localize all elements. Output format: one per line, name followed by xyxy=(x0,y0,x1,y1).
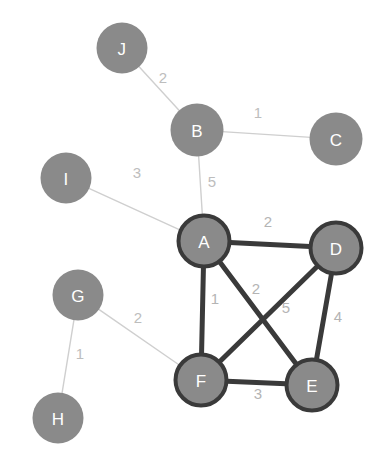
edge-weight-label-d-f: 5 xyxy=(282,299,290,316)
edge-weight-label-a-f: 1 xyxy=(211,290,219,307)
node-label-j: J xyxy=(118,40,127,59)
graph-edge-g-h xyxy=(62,319,74,395)
edge-weight-label-a-d: 2 xyxy=(264,213,272,230)
graph-edge-a-f xyxy=(202,267,204,354)
edge-weight-label-g-f: 2 xyxy=(134,309,142,326)
graph-edge-b-a xyxy=(199,155,203,215)
graph-node-e[interactable]: E xyxy=(287,360,338,411)
graph-node-f[interactable]: F xyxy=(176,355,227,406)
graph-node-c[interactable]: C xyxy=(310,113,363,166)
node-label-e: E xyxy=(306,377,318,396)
graph-diagram: JBCIADGFEH 215321254321 xyxy=(0,0,386,474)
node-label-b: B xyxy=(191,122,203,141)
graph-node-d[interactable]: D xyxy=(311,223,362,274)
graph-node-j[interactable]: J xyxy=(97,23,148,74)
graph-canvas: JBCIADGFEH 215321254321 xyxy=(0,0,386,474)
nodes-layer: JBCIADGFEH xyxy=(33,23,363,444)
edge-weight-label-b-a: 5 xyxy=(208,173,216,190)
graph-node-g[interactable]: G xyxy=(53,270,104,321)
graph-node-i[interactable]: I xyxy=(41,153,92,204)
edge-weight-label-g-h: 1 xyxy=(76,345,84,362)
edge-weight-label-f-e: 3 xyxy=(254,385,262,402)
edge-weight-label-i-a: 3 xyxy=(133,164,141,181)
edge-weight-label-j-b: 2 xyxy=(159,69,167,86)
graph-node-a[interactable]: A xyxy=(179,216,230,267)
edge-weight-label-a-e: 2 xyxy=(252,280,260,297)
node-label-f: F xyxy=(196,372,207,391)
edge-weight-label-d-e: 4 xyxy=(334,308,342,325)
graph-edge-f-e xyxy=(227,381,286,384)
graph-node-h[interactable]: H xyxy=(33,393,84,444)
node-label-i: I xyxy=(63,170,68,189)
graph-edge-d-e xyxy=(316,274,331,360)
node-label-d: D xyxy=(330,240,343,259)
node-label-h: H xyxy=(52,410,65,429)
graph-node-b[interactable]: B xyxy=(171,104,224,157)
node-label-c: C xyxy=(330,131,343,150)
node-label-a: A xyxy=(198,233,210,252)
node-label-g: G xyxy=(71,287,85,306)
graph-edge-i-a xyxy=(88,188,181,230)
edge-weight-label-b-c: 1 xyxy=(254,104,262,121)
graph-edge-a-d xyxy=(230,242,310,246)
graph-edge-b-c xyxy=(222,132,311,138)
